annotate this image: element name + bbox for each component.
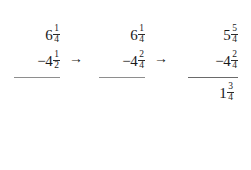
subtraction-rule xyxy=(99,77,145,78)
minuend-whole: 6 xyxy=(130,28,138,43)
answer-denominator: 4 xyxy=(227,92,234,103)
subtrahend-fraction: 2 4 xyxy=(231,50,238,70)
subtrahend-fraction: 1 2 xyxy=(53,50,60,70)
minuend-fraction: 1 4 xyxy=(53,24,60,44)
answer-numerator: 3 xyxy=(227,82,234,92)
answer-fraction: 3 4 xyxy=(227,82,234,102)
subtrahend-sign: − xyxy=(122,54,130,69)
subtrahend-numerator: 2 xyxy=(231,50,238,60)
minuend-denominator: 4 xyxy=(231,34,238,45)
minuend-whole: 6 xyxy=(45,28,53,43)
arrow-to-regrouped-icon: → xyxy=(154,52,168,66)
subtrahend-fraction: 2 4 xyxy=(138,50,145,70)
minuend-numerator: 5 xyxy=(231,24,238,34)
arrow-to-common-denominator-icon: → xyxy=(69,52,83,66)
subtrahend-row: − 4 1 2 xyxy=(37,48,60,74)
minuend-row: 5 5 4 xyxy=(223,22,238,48)
minuend-denominator: 4 xyxy=(138,34,145,45)
minuend-row: 6 1 4 xyxy=(130,22,145,48)
minuend-fraction: 5 4 xyxy=(231,24,238,44)
minuend-denominator: 4 xyxy=(53,34,60,45)
subtrahend-row: − 4 2 4 xyxy=(122,48,145,74)
minuend-fraction: 1 4 xyxy=(138,24,145,44)
answer-row: 1 3 4 xyxy=(219,80,238,106)
subtrahend-whole: 4 xyxy=(223,54,231,69)
subtrahend-numerator: 2 xyxy=(138,50,145,60)
subtrahend-sign: − xyxy=(37,54,45,69)
subtrahend-row: − 4 2 4 xyxy=(215,48,238,74)
math-worksheet: 6 1 4 − 4 1 2 → 6 xyxy=(0,0,251,170)
minuend-row: 6 1 4 xyxy=(45,22,60,48)
subtrahend-denominator: 4 xyxy=(231,60,238,71)
subtrahend-whole: 4 xyxy=(130,54,138,69)
subtrahend-denominator: 4 xyxy=(138,60,145,71)
subtraction-rule xyxy=(14,77,60,78)
subtraction-rule xyxy=(188,77,238,78)
subtrahend-sign: − xyxy=(215,54,223,69)
stage-common-denominator: 6 1 4 − 4 2 4 xyxy=(97,22,145,80)
subtraction-sequence: 6 1 4 − 4 1 2 → 6 xyxy=(0,22,251,106)
subtrahend-numerator: 1 xyxy=(53,50,60,60)
answer-whole: 1 xyxy=(219,86,227,101)
subtrahend-denominator: 2 xyxy=(53,60,60,71)
subtrahend-whole: 4 xyxy=(45,54,53,69)
stage-regrouped: 5 5 4 − 4 2 4 1 3 4 xyxy=(186,22,238,106)
stage-original: 6 1 4 − 4 1 2 xyxy=(12,22,60,80)
minuend-numerator: 1 xyxy=(138,24,145,34)
minuend-numerator: 1 xyxy=(53,24,60,34)
minuend-whole: 5 xyxy=(223,28,231,43)
